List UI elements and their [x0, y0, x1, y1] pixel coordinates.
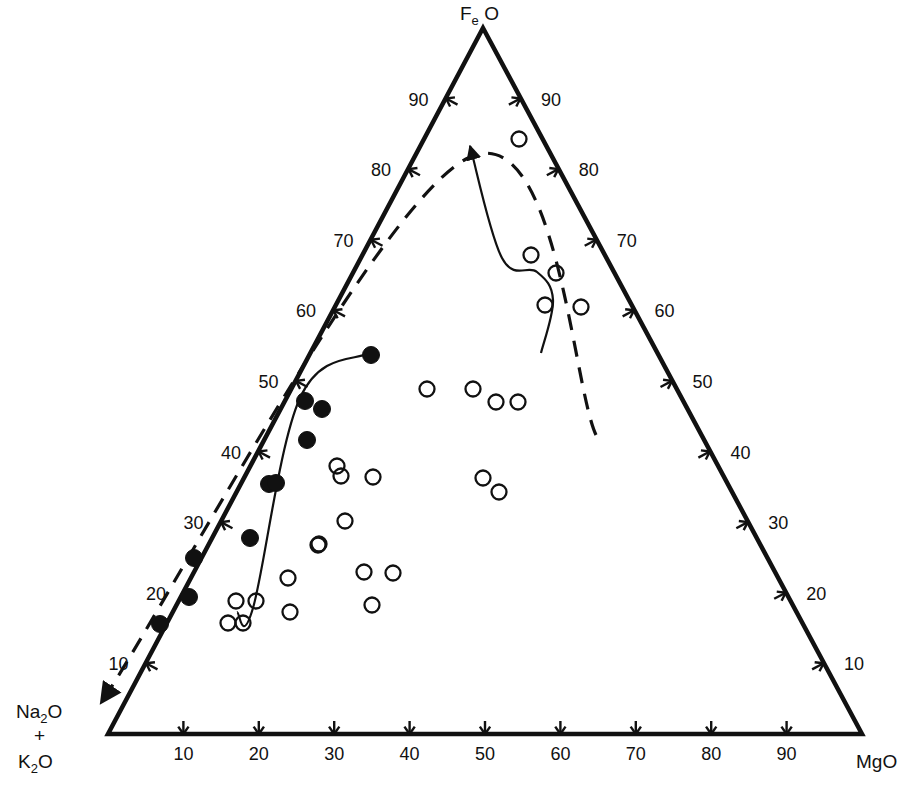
tick-label-right-20: 20: [806, 584, 826, 604]
tick-label-bottom-60: 60: [550, 744, 570, 764]
open-circle-point-20: [229, 594, 244, 609]
tick-label-left-80: 80: [371, 160, 391, 180]
open-circle-point-2: [549, 266, 564, 281]
tick-left-80: [409, 168, 420, 177]
open-circle-point-6: [466, 382, 481, 397]
tick-label-left-70: 70: [333, 231, 353, 251]
tick-label-left-40: 40: [221, 443, 241, 463]
data-points: [152, 132, 589, 633]
tick-left-40: [259, 450, 270, 459]
tick-right-40: [698, 450, 709, 459]
open-circle-point-3: [538, 298, 553, 313]
open-circle-point-25: [365, 598, 380, 613]
tick-label-right-80: 80: [579, 160, 599, 180]
filled-circle-point-3: [299, 432, 316, 449]
tick-right-10: [812, 662, 823, 671]
open-circle-point-1: [524, 248, 539, 263]
tick-label-left-50: 50: [258, 372, 278, 392]
tick-label-bottom-50: 50: [475, 744, 495, 764]
solid-trend-arrow: [470, 146, 553, 353]
filled-circle-point-0: [363, 347, 380, 364]
tick-label-right-50: 50: [693, 372, 713, 392]
open-circle-point-4: [574, 300, 589, 315]
filled-circle-point-5: [268, 475, 285, 492]
tick-label-bottom-80: 80: [701, 744, 721, 764]
open-circle-point-14: [338, 514, 353, 529]
tick-right-20: [774, 592, 785, 601]
tick-label-right-40: 40: [730, 443, 750, 463]
tick-label-right-60: 60: [655, 301, 675, 321]
tick-label-bottom-30: 30: [324, 744, 344, 764]
open-circle-point-7: [489, 395, 504, 410]
tick-label-bottom-10: 10: [173, 744, 193, 764]
tick-left-30: [221, 521, 232, 530]
tick-label-bottom-90: 90: [777, 744, 797, 764]
tick-right-80: [547, 168, 558, 177]
open-circle-point-23: [221, 616, 236, 631]
tick-left-90: [446, 97, 457, 106]
tick-right-50: [661, 380, 672, 389]
open-circle-point-5: [420, 382, 435, 397]
ternary-diagram-figure: 1020304050607080901020304050607080901020…: [0, 0, 903, 786]
open-circle-point-16: [312, 537, 327, 552]
open-circle-point-0: [512, 132, 527, 147]
tick-left-10: [146, 662, 157, 671]
tick-label-right-90: 90: [541, 90, 561, 110]
tick-label-left-30: 30: [183, 513, 203, 533]
ternary-plot-canvas: 1020304050607080901020304050607080901020…: [0, 0, 903, 786]
open-circle-point-18: [357, 565, 372, 580]
filled-circle-point-9: [152, 616, 169, 633]
tick-label-bottom-70: 70: [626, 744, 646, 764]
tick-right-70: [585, 239, 596, 248]
open-circle-point-8: [511, 395, 526, 410]
open-circle-point-22: [283, 605, 298, 620]
filled-circle-point-2: [314, 401, 331, 418]
tick-label-left-90: 90: [408, 90, 428, 110]
tick-label-right-30: 30: [768, 513, 788, 533]
open-circle-point-9: [330, 459, 345, 474]
tick-label-right-10: 10: [844, 654, 864, 674]
axis-ticks: [146, 97, 824, 734]
open-circle-point-13: [492, 485, 507, 500]
tick-right-60: [623, 309, 634, 318]
tick-label-bottom-40: 40: [400, 744, 420, 764]
tick-right-90: [509, 97, 520, 106]
filled-circle-point-7: [186, 550, 203, 567]
filled-circle-point-6: [242, 530, 259, 547]
open-circle-point-10: [334, 469, 349, 484]
open-circle-point-11: [366, 470, 381, 485]
tick-label-left-60: 60: [296, 301, 316, 321]
tick-right-30: [736, 521, 747, 530]
axis-tick-labels: 1020304050607080901020304050607080901020…: [108, 90, 864, 764]
filled-circle-point-8: [181, 589, 198, 606]
tick-left-70: [371, 239, 382, 248]
open-circle-point-17: [281, 571, 296, 586]
open-circle-point-12: [476, 471, 491, 486]
tick-label-bottom-20: 20: [249, 744, 269, 764]
tick-label-right-70: 70: [617, 231, 637, 251]
open-circle-point-19: [386, 566, 401, 581]
trend-annotations: [101, 146, 596, 703]
filled-circle-point-1: [297, 393, 314, 410]
